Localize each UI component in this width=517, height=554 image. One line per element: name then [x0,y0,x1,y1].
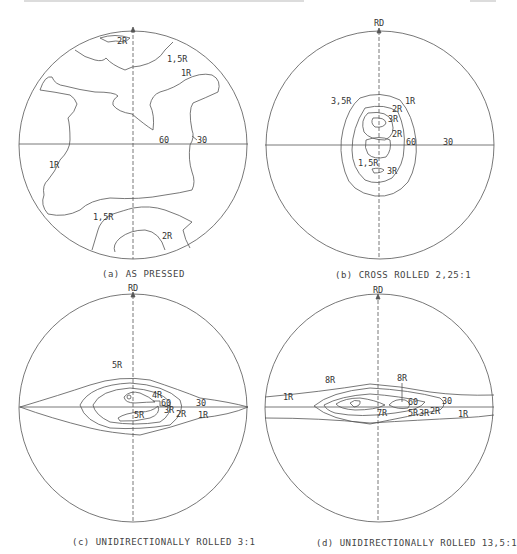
contour-label: 1R [198,410,209,420]
caption-d: (d) UNIDIRECTIONALLY ROLLED 13,5:1 [316,538,517,548]
contour-label: 1,5R [358,158,379,168]
ring-label-60: 60 [406,137,416,147]
contour-label: 3R [387,166,398,176]
contour-label: 1,5R [93,212,114,222]
ring-label-30: 30 [197,135,207,145]
contour-label: 2R [392,129,403,139]
pole-figure-a [19,27,248,259]
contour-label: 1R [283,392,294,402]
contour-label: 1R [181,68,192,78]
pole-figure-b [265,28,494,259]
contour-label: 3R [388,114,399,124]
contour-label: 7R [377,408,388,418]
contour-label: 2R [117,36,128,46]
arrow-icon [377,28,381,33]
contour-label: 1R [49,160,60,170]
ring-label-60: 60 [161,398,171,408]
contour-label: 2R [392,104,403,114]
rd-axis-label: RD [374,18,384,28]
contour-label: 1R [405,96,416,106]
contour-label: 1R [458,409,469,419]
ring-label-30: 30 [196,398,206,408]
arrow-icon [131,27,135,32]
ring-label-60: 60 [408,397,418,407]
rd-axis-label: RD [373,285,383,295]
contour-label: 2R [176,409,187,419]
contour-label: 1,5R [167,54,188,64]
contour-label: 2R [430,406,441,416]
pole-figure-c [19,292,248,522]
contour-label: 2R [162,231,173,241]
contour-label: 8R [397,373,408,383]
caption-b: (b) CROSS ROLLED 2,25:1 [335,270,471,280]
contour-label: 5R [134,410,145,420]
ring-label-60: 60 [159,135,169,145]
contour-label: 5R [408,408,419,418]
contour-label: 5R [112,360,123,370]
caption-c: (c) UNIDIRECTIONALLY ROLLED 3:1 [72,537,255,547]
caption-a: (a) AS PRESSED [102,269,185,279]
ring-label-30: 30 [443,137,453,147]
contour-label: 3R [419,408,430,418]
contour-label: 3,5R [331,96,352,106]
rd-axis-label: RD [128,283,138,293]
ring-label-30: 30 [442,396,452,406]
contour-label: 8R [325,375,336,385]
